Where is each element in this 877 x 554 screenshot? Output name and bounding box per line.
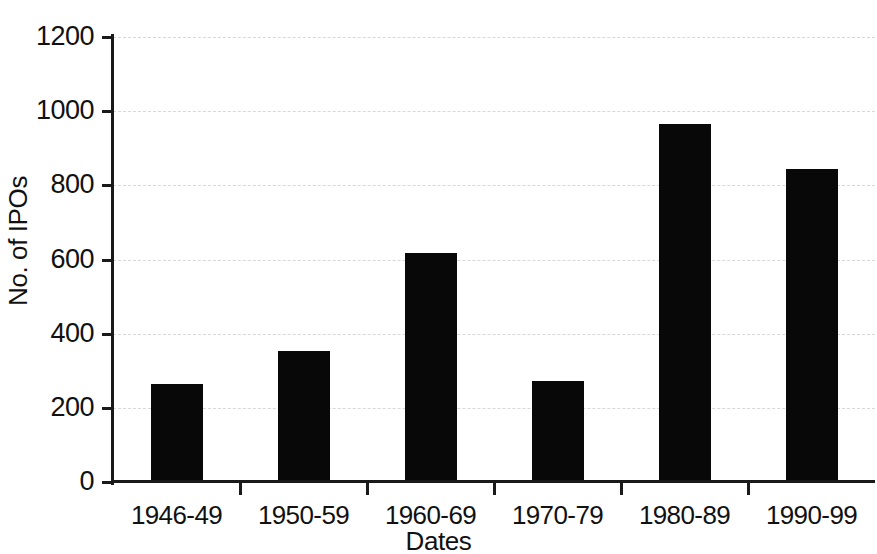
- x-axis-title: Dates: [0, 527, 877, 554]
- y-axis-title: No. of IPOs: [0, 0, 36, 482]
- y-axis-tick-label: 600: [50, 246, 94, 273]
- x-axis-tick-label: 1946-49: [113, 500, 240, 530]
- y-axis-tick-mark: [102, 333, 113, 336]
- y-axis-title-text: No. of IPOs: [4, 176, 32, 306]
- x-axis-tick-mark: [239, 483, 242, 495]
- bar: [151, 384, 203, 482]
- bar: [278, 351, 330, 482]
- y-axis-tick-label: 0: [79, 468, 94, 495]
- x-axis-tick-label: 1950-59: [240, 500, 367, 530]
- x-axis-tick-mark: [366, 483, 369, 495]
- gridline: [113, 111, 875, 112]
- bar: [786, 169, 838, 482]
- y-axis-tick-mark: [102, 110, 113, 113]
- bar-chart: 020040060080010001200 1946-491950-591960…: [0, 0, 877, 554]
- gridline: [113, 185, 875, 186]
- plot-area: [113, 37, 875, 482]
- gridline: [113, 334, 875, 335]
- bar: [532, 381, 584, 482]
- gridline: [113, 408, 875, 409]
- bar: [405, 253, 457, 482]
- y-axis-tick-mark: [102, 481, 113, 484]
- y-axis-tick-label: 1000: [36, 97, 94, 124]
- y-axis-tick-mark: [102, 36, 113, 39]
- y-axis-tick-label: 1200: [36, 23, 94, 50]
- bar: [659, 124, 711, 482]
- x-axis-tick-mark: [747, 483, 750, 495]
- y-axis-tick-label: 400: [50, 320, 94, 347]
- y-axis-tick-label: 200: [50, 394, 94, 421]
- x-axis-tick-mark: [493, 483, 496, 495]
- gridline: [113, 37, 875, 38]
- y-axis-tick-label: 800: [50, 171, 94, 198]
- gridline: [113, 260, 875, 261]
- y-axis-tick-mark: [102, 407, 113, 410]
- y-axis-tick-mark: [102, 259, 113, 262]
- x-axis-tick-label: 1980-89: [621, 500, 748, 530]
- x-axis-tick-label: 1990-99: [748, 500, 875, 530]
- y-axis-tick-mark: [102, 184, 113, 187]
- x-axis-tick-mark: [620, 483, 623, 495]
- x-axis-tick-label: 1970-79: [494, 500, 621, 530]
